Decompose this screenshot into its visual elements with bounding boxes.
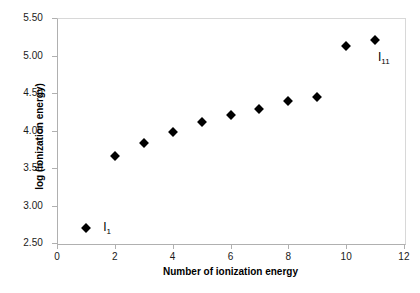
y-tick-label: 2.50: [23, 238, 43, 248]
x-tick-label: 0: [54, 251, 60, 262]
x-tick-label: 12: [398, 251, 409, 262]
x-tick-mark: [346, 244, 347, 249]
y-tick-mark: [52, 93, 57, 94]
x-tick-mark: [173, 244, 174, 249]
x-tick-mark: [115, 244, 116, 249]
y-tick-label: 5.50: [23, 13, 43, 23]
y-axis-title: log (ionization energy): [34, 37, 45, 237]
annotation-label: I11: [378, 51, 390, 63]
x-tick-mark: [404, 244, 405, 249]
x-tick-label: 10: [340, 251, 351, 262]
y-tick-mark: [52, 206, 57, 207]
ionization-energy-scatter-chart: 2.503.003.504.004.505.005.50 log (ioniza…: [0, 0, 420, 293]
annotation-label: I1: [103, 221, 111, 233]
y-tick-mark: [52, 56, 57, 57]
x-tick-mark: [288, 244, 289, 249]
x-tick-label: 6: [228, 251, 234, 262]
y-tick-mark: [52, 18, 57, 19]
plot-area: [57, 18, 406, 245]
x-tick-label: 8: [285, 251, 291, 262]
x-axis-title: Number of ionization energy: [57, 266, 404, 277]
x-tick-label: 2: [112, 251, 118, 262]
x-tick-mark: [57, 244, 58, 249]
y-tick-mark: [52, 131, 57, 132]
x-tick-label: 4: [170, 251, 176, 262]
y-tick-mark: [52, 168, 57, 169]
x-tick-mark: [231, 244, 232, 249]
